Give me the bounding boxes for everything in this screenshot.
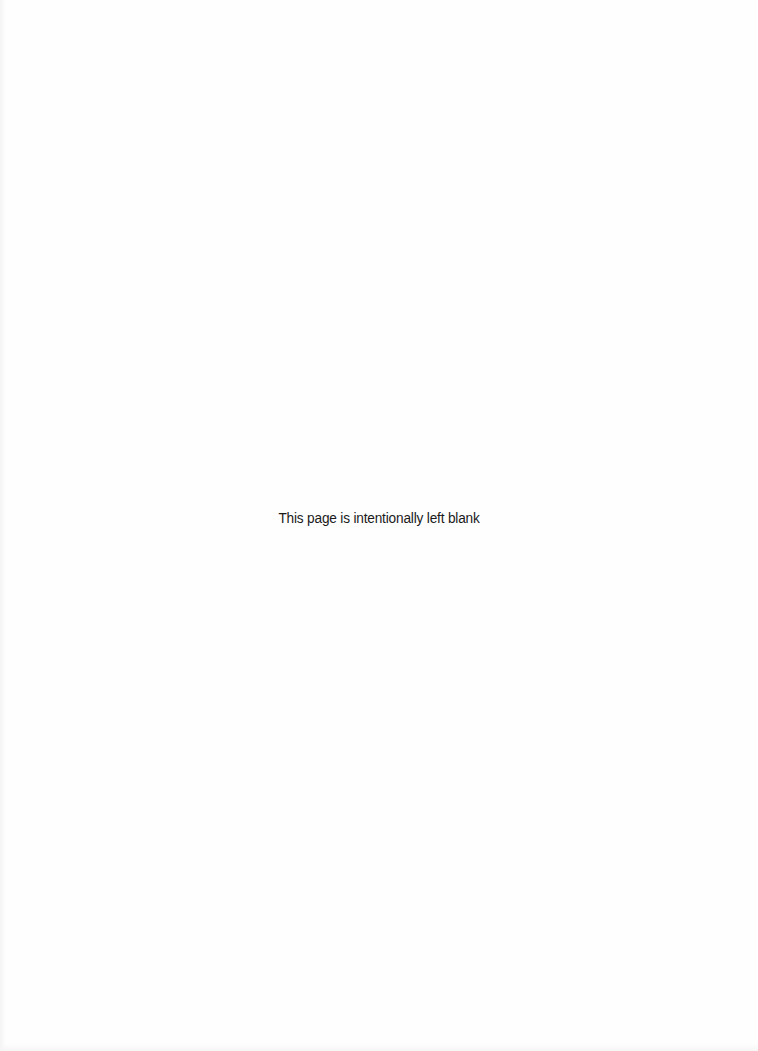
scan-edge-left: [0, 0, 6, 1051]
document-page: This page is intentionally left blank: [0, 0, 758, 1051]
blank-page-notice: This page is intentionally left blank: [45, 509, 712, 527]
scan-edge-bottom: [0, 1043, 758, 1051]
